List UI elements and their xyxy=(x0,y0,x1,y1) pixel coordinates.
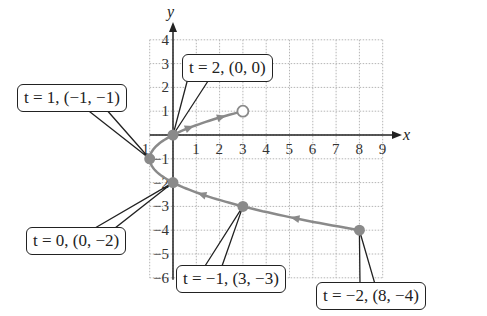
svg-text:3: 3 xyxy=(162,56,170,72)
svg-text:−5: −5 xyxy=(153,246,169,262)
svg-text:4: 4 xyxy=(162,32,170,48)
callout-tm2: t = −2, (8, −4) xyxy=(316,282,426,310)
svg-text:7: 7 xyxy=(332,141,340,157)
svg-text:6: 6 xyxy=(309,141,317,157)
y-axis-label: y xyxy=(165,3,175,21)
svg-text:−6: −6 xyxy=(153,270,169,286)
callout-t0: t = 0, (0, −2) xyxy=(26,227,126,255)
svg-text:2: 2 xyxy=(162,79,170,95)
svg-text:−3: −3 xyxy=(153,198,169,214)
svg-text:3: 3 xyxy=(239,141,247,157)
svg-text:−4: −4 xyxy=(153,222,169,238)
x-axis-label: x xyxy=(402,126,410,143)
svg-text:−1: −1 xyxy=(153,151,169,167)
callout-tm1: t = −1, (3, −3) xyxy=(176,265,286,293)
svg-text:5: 5 xyxy=(286,141,294,157)
svg-text:2: 2 xyxy=(216,141,224,157)
svg-text:8: 8 xyxy=(355,141,363,157)
svg-text:9: 9 xyxy=(379,141,387,157)
svg-text:1: 1 xyxy=(192,141,200,157)
callout-pointers xyxy=(85,78,375,284)
callout-t1: t = 1, (−1, −1) xyxy=(17,84,127,112)
svg-text:4: 4 xyxy=(262,141,270,157)
svg-text:1: 1 xyxy=(162,103,170,119)
callout-t2: t = 2, (0, 0) xyxy=(182,54,273,82)
